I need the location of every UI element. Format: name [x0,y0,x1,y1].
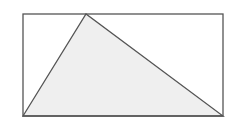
inscribed-triangle [23,14,223,116]
geometry-diagram [0,0,233,121]
